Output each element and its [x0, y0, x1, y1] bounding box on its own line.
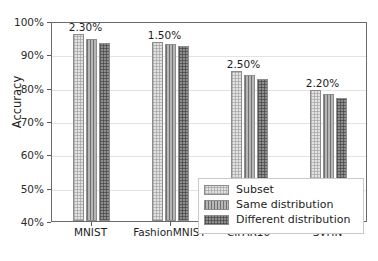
- legend-item: Different distribution: [204, 213, 358, 227]
- y-tick-label: 60%: [0, 150, 44, 160]
- legend-label-same-distribution: Same distribution: [236, 199, 333, 211]
- y-tick-label: 40%: [0, 217, 44, 227]
- annotation-mnist: 2.30%: [69, 22, 102, 33]
- x-tick-mark: [170, 222, 171, 226]
- bar-fashionmnist-different-distribution: [178, 46, 190, 221]
- chart-legend: Subset Same distribution Different distr…: [198, 178, 364, 234]
- bar-mnist-different-distribution: [99, 43, 111, 221]
- bar-fashionmnist-same-distribution: [165, 44, 177, 221]
- annotation-svhn: 2.20%: [306, 78, 339, 89]
- y-tick-label: 80%: [0, 84, 44, 94]
- x-tick-mark: [91, 222, 92, 226]
- legend-swatch-different-distribution: [204, 215, 229, 225]
- bar-fashionmnist-subset: [152, 42, 164, 221]
- y-tick-label: 70%: [0, 117, 44, 127]
- legend-item: Subset: [204, 183, 358, 197]
- y-tick-mark: [47, 222, 51, 223]
- legend-label-different-distribution: Different distribution: [236, 214, 350, 226]
- legend-label-subset: Subset: [236, 184, 274, 196]
- bar-mnist-same-distribution: [86, 39, 98, 221]
- y-axis-label: Accuracy: [10, 47, 24, 157]
- legend-swatch-same-distribution: [204, 200, 229, 210]
- annotation-cifar10: 2.50%: [227, 59, 260, 70]
- bar-chart-figure: Accuracy 40%50%60%70%80%90%100% 2.30%1.5…: [0, 0, 378, 261]
- legend-item: Same distribution: [204, 198, 358, 212]
- y-tick-label: 100%: [0, 17, 44, 27]
- y-tick-label: 90%: [0, 50, 44, 60]
- y-tick-label: 50%: [0, 184, 44, 194]
- annotation-fashionmnist: 1.50%: [148, 30, 181, 41]
- bar-mnist-subset: [73, 34, 85, 221]
- legend-swatch-subset: [204, 185, 229, 195]
